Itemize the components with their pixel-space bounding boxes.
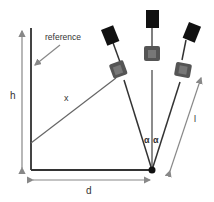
alpha-left-label: α — [144, 135, 150, 145]
camera-right — [174, 22, 201, 78]
h-label: h — [10, 90, 16, 101]
camera-center-lens — [148, 50, 156, 58]
alpha-right-label: α — [153, 135, 159, 145]
l-label: l — [194, 114, 196, 124]
d-label: d — [86, 185, 92, 196]
reference-label: reference — [45, 32, 81, 42]
ray-left — [124, 80, 152, 170]
camera-right-panel — [183, 22, 201, 43]
camera-right-mast — [182, 40, 186, 60]
camera-left — [101, 25, 128, 79]
l-dimension-arrow — [170, 78, 201, 171]
x-line — [31, 78, 116, 143]
camera-right-lens — [178, 65, 187, 74]
reference-pointer-arrow — [35, 45, 60, 65]
camera-geometry-diagram: h d reference x α α l — [0, 0, 214, 202]
x-label: x — [64, 93, 69, 103]
camera-left-panel — [101, 25, 119, 46]
camera-center — [144, 10, 160, 61]
camera-center-panel — [146, 10, 159, 28]
ray-right — [152, 82, 180, 170]
pivot-point — [149, 167, 156, 174]
